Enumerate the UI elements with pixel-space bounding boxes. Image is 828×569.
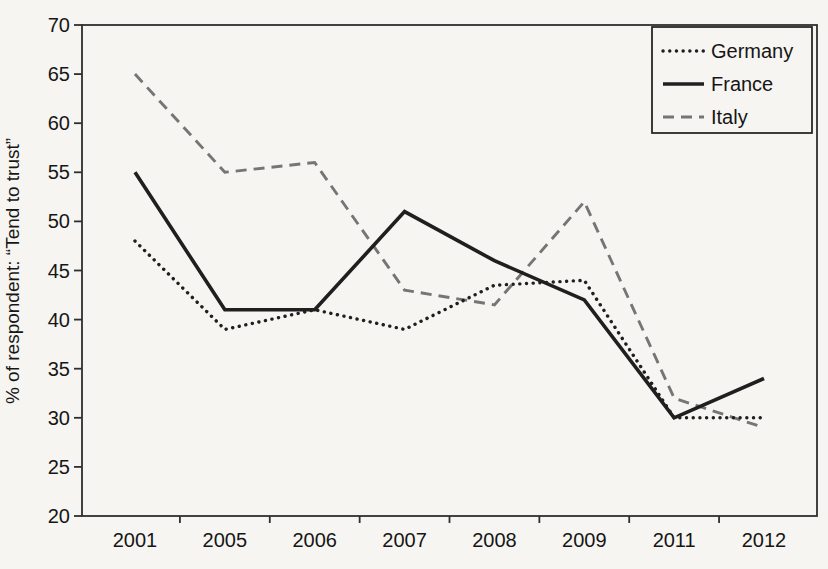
- y-tick-label: 45: [48, 260, 70, 282]
- legend-label-france: France: [711, 73, 773, 95]
- y-axis-title: % of respondent: “Tend to trust”: [2, 138, 23, 404]
- y-tick-label: 70: [48, 14, 70, 36]
- y-tick-label: 20: [48, 505, 70, 527]
- y-tick-label: 40: [48, 309, 70, 331]
- y-tick-label: 65: [48, 63, 70, 85]
- legend: GermanyFranceItaly: [652, 27, 812, 133]
- x-tick-label: 2012: [742, 529, 787, 551]
- trust-line-chart: % of respondent: “Tend to trust” 2025303…: [0, 0, 828, 569]
- series-line-france: [135, 172, 764, 417]
- x-tick-label: 2011: [653, 529, 696, 551]
- x-tick-label: 2001: [113, 529, 158, 551]
- x-tick-label: 2006: [292, 529, 337, 551]
- y-tick-label: 55: [48, 161, 70, 183]
- x-tick-label: 2009: [562, 529, 607, 551]
- scanned-line-chart-figure: % of respondent: “Tend to trust” 2025303…: [0, 0, 828, 569]
- y-tick-label: 50: [48, 210, 70, 232]
- legend-label-italy: Italy: [711, 106, 748, 128]
- y-tick-label: 25: [48, 456, 70, 478]
- y-tick-label: 35: [48, 358, 70, 380]
- legend-label-germany: Germany: [711, 40, 793, 62]
- y-tick-label: 30: [48, 407, 70, 429]
- x-tick-label: 2008: [472, 529, 517, 551]
- y-tick-label: 60: [48, 112, 70, 134]
- x-tick-label: 2007: [382, 529, 427, 551]
- x-tick-label: 2005: [203, 529, 248, 551]
